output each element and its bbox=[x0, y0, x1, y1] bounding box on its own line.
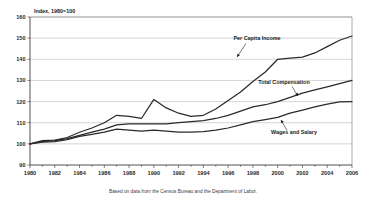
series-label-per-capita-income: Per Capita Income bbox=[233, 35, 280, 41]
y-tick-label-110: 110 bbox=[16, 120, 25, 126]
x-tick-label-2006: 2006 bbox=[346, 170, 358, 176]
y-tick-label-140: 140 bbox=[16, 56, 25, 62]
y-tick-label-160: 160 bbox=[16, 14, 25, 20]
y-tick-label-90: 90 bbox=[19, 162, 25, 168]
x-tick-label-1988: 1988 bbox=[123, 170, 135, 176]
x-tick-label-1992: 1992 bbox=[172, 170, 184, 176]
series-label-total-compensation: Total Compensation bbox=[258, 79, 309, 85]
y-tick-label-150: 150 bbox=[16, 35, 25, 41]
x-tick-label-1982: 1982 bbox=[49, 170, 61, 176]
x-tick-label-1994: 1994 bbox=[197, 170, 210, 176]
x-tick-label-1984: 1984 bbox=[73, 170, 86, 176]
line-chart: 90100110120130140150160 1980198219841986… bbox=[0, 0, 366, 201]
source-footnote: Based on data from the Census Bureau and… bbox=[109, 189, 257, 194]
series-label-wages-and-salary: Wages and Salary bbox=[271, 129, 317, 135]
x-tick-label-1986: 1986 bbox=[98, 170, 110, 176]
x-tick-label-1990: 1990 bbox=[148, 170, 160, 176]
x-tick-label-1998: 1998 bbox=[247, 170, 259, 176]
y-tick-label-120: 120 bbox=[16, 99, 25, 105]
x-tick-label-1980: 1980 bbox=[24, 170, 36, 176]
chart-title: Index, 1980=100 bbox=[34, 8, 75, 14]
x-tick-label-2000: 2000 bbox=[271, 170, 283, 176]
y-tick-label-100: 100 bbox=[16, 141, 25, 147]
chart-container: 90100110120130140150160 1980198219841986… bbox=[0, 0, 366, 201]
x-tick-label-2004: 2004 bbox=[321, 170, 334, 176]
x-tick-label-1996: 1996 bbox=[222, 170, 234, 176]
y-tick-label-130: 130 bbox=[16, 77, 25, 83]
x-tick-label-2002: 2002 bbox=[296, 170, 308, 176]
